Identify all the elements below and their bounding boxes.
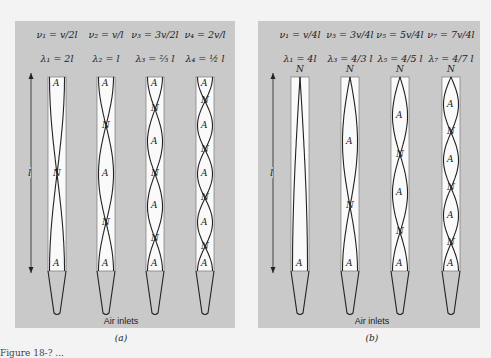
antinode-label: A [201,78,208,88]
frequency-formula: ν₇ = 7v/4l [427,29,474,40]
antinode-label: A [447,154,454,164]
antinode-label: A [447,99,454,109]
antinode-label: A [447,258,454,268]
mouthpiece [442,271,460,315]
node-label: N [102,217,110,227]
node-label: N [396,64,404,74]
node-label: N [396,149,404,159]
node-label: N [447,182,455,192]
antinode-label: A [102,258,109,268]
node-label: N [346,64,354,74]
wavelength-formula: λ₇ = 4/7 l [428,53,473,64]
length-label: l [270,167,273,178]
node-label: N [151,233,159,243]
air-inlets-label: Air inlets [355,316,390,326]
antinode-label: A [102,168,109,178]
frequency-formula: ν₁ = v/4l [279,29,320,40]
node-label: N [447,64,455,74]
node-label: N [53,168,61,178]
antinode-label: A [396,110,403,120]
pipe-tube [391,77,409,271]
panel-sublabel: (a) [115,333,127,343]
mouthpiece [341,271,359,315]
antinode-label: A [396,258,403,268]
node-label: N [102,120,110,130]
antinode-label: A [151,200,158,210]
length-label: l [28,167,31,178]
antinode-label: A [151,78,158,88]
frequency-formula: ν₃ = 3v/2l [131,29,178,40]
antinode-label: A [53,258,60,268]
frequency-formula: ν₅ = 5v/4l [376,29,423,40]
wavelength-formula: λ₅ = 4/5 l [377,53,422,64]
frequency-formula: ν₁ = v/2l [36,29,77,40]
antinode-label: A [201,168,208,178]
node-label: N [396,226,404,236]
node-label: N [201,192,209,202]
node-label: N [296,64,304,74]
antinode-label: A [53,78,60,88]
frequency-formula: ν₄ = 2v/l [184,29,225,40]
pipe-tube [341,77,359,271]
mouthpiece [391,271,409,315]
mouthpiece [97,271,115,315]
wavelength-formula: λ₂ = l [93,53,120,64]
node-label: N [151,168,159,178]
air-inlets-label: Air inlets [104,316,139,326]
wavelength-formula: λ₁ = 4l [284,53,317,64]
node-label: N [151,103,159,113]
wavelength-formula: λ₃ = 4/3 l [327,53,372,64]
figure-caption: Figure 18-? ... [0,348,64,358]
panel-sublabel: (b) [366,333,379,343]
mouthpiece [146,271,164,315]
node-label: N [201,144,209,154]
wavelength-formula: λ₄ = ½ l [185,53,224,64]
antinode-label: A [201,217,208,227]
antinode-label: A [296,258,303,268]
antinode-label: A [346,136,353,146]
node-label: N [201,95,209,105]
mouthpiece [48,271,66,315]
antinode-label: A [201,258,208,268]
mouthpiece [196,271,214,315]
antinode-label: A [346,258,353,268]
antinode-label: A [447,210,454,220]
frequency-formula: ν₂ = v/l [88,29,123,40]
node-label: N [346,200,354,210]
antinode-label: A [151,136,158,146]
frequency-formula: ν₃ = 3v/4l [326,29,373,40]
node-label: N [201,241,209,251]
wavelength-formula: λ₃ = ⅔ l [135,53,174,64]
antinode-label: A [396,187,403,197]
antinode-label: A [102,78,109,88]
node-label: N [447,126,455,136]
mouthpiece [291,271,309,315]
wavelength-formula: λ₁ = 2l [41,53,74,64]
antinode-label: A [151,258,158,268]
node-label: N [447,237,455,247]
antinode-label: A [201,120,208,130]
pipe-tube [291,77,309,271]
